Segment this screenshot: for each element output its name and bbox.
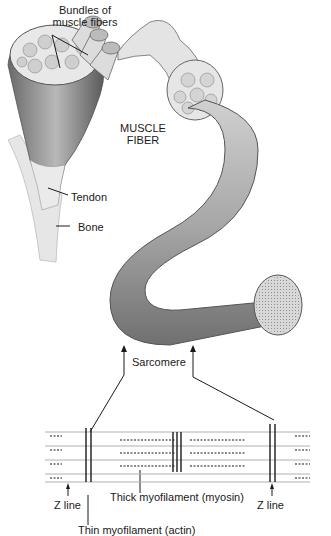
label-muscle-fiber-line1: MUSCLE bbox=[118, 122, 168, 134]
label-muscle-fiber: MUSCLE FIBER bbox=[118, 122, 168, 146]
label-thick-myofilament: Thick myofilament (myosin) bbox=[110, 491, 244, 503]
label-muscle-fiber-line2: FIBER bbox=[118, 134, 168, 146]
label-thin-myofilament: Thin myofilament (actin) bbox=[78, 524, 195, 536]
label-bundles-line1: Bundles of bbox=[40, 4, 130, 16]
label-tendon: Tendon bbox=[71, 191, 107, 203]
label-z-line-right: Z line bbox=[257, 499, 284, 511]
sarcomere bbox=[45, 424, 310, 482]
label-bundles: Bundles of muscle fibers bbox=[40, 4, 130, 28]
label-z-line-left: Z line bbox=[54, 499, 81, 511]
label-bone: Bone bbox=[78, 221, 104, 233]
label-bundles-line2: muscle fibers bbox=[40, 16, 130, 28]
fiber-end bbox=[254, 275, 302, 335]
label-sarcomere: Sarcomere bbox=[132, 356, 186, 368]
